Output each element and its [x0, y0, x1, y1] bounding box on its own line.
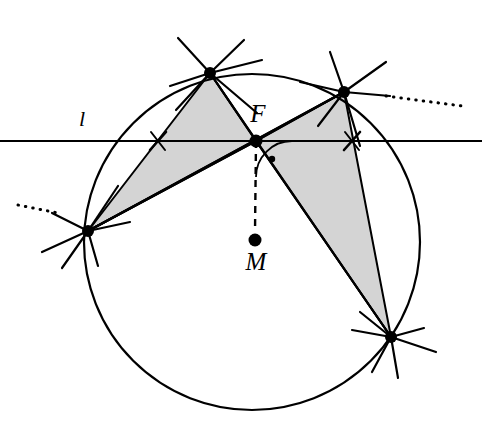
dotted-extension-right — [386, 96, 462, 106]
cross-at-D-spoke-3 — [391, 337, 436, 352]
dotted-extension-left — [18, 205, 58, 213]
geometry-figure: l F M — [0, 0, 482, 431]
line-l-label: l — [79, 106, 85, 131]
triangle-left — [88, 73, 256, 231]
cross-at-B-spoke-0 — [330, 52, 344, 92]
cross-at-B-spoke-1 — [344, 62, 386, 92]
point-f-label: F — [249, 100, 266, 127]
geometry-canvas: l F M — [0, 0, 482, 431]
cross-at-B-spoke-3 — [344, 92, 390, 96]
shaded-regions-group — [88, 73, 391, 337]
marker-A — [204, 67, 216, 79]
segment-F-M — [255, 141, 256, 232]
cross-at-D-spoke-5 — [391, 337, 398, 378]
marker-C — [82, 225, 94, 237]
cross-at-C-spoke-0 — [52, 213, 88, 231]
right-angle-dot — [269, 156, 275, 162]
cross-at-A-spoke-0 — [178, 38, 210, 73]
cross-at-B-spoke-2 — [300, 82, 344, 92]
vertex-crosses-group — [42, 38, 436, 378]
marker-B — [338, 86, 350, 98]
marker-D — [385, 331, 397, 343]
marker-M — [249, 234, 262, 247]
dashed-segment-group — [255, 141, 256, 232]
marker-F — [250, 135, 263, 148]
point-m-label: M — [245, 248, 268, 275]
